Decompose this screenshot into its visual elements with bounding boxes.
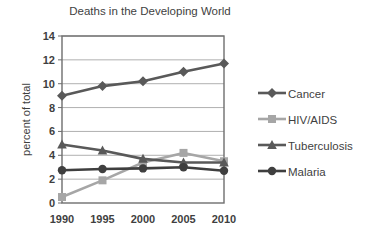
chart-legend: CancerHIV/AIDSTuberculosisMalaria — [258, 88, 353, 178]
x-axis-label-1995: 1995 — [90, 213, 114, 225]
y-axis-label-6: 6 — [49, 125, 55, 137]
y-axis-label-8: 8 — [49, 102, 55, 114]
x-axis-label-2010: 2010 — [212, 213, 236, 225]
legend-item-malaria[interactable]: Malaria — [258, 166, 326, 178]
data-point-cancer-2005 — [179, 67, 189, 77]
x-axis-label-2005: 2005 — [171, 213, 195, 225]
legend-label-malaria: Malaria — [288, 166, 326, 178]
legend-item-tuberculosis[interactable]: Tuberculosis — [258, 140, 353, 152]
plot-area-border — [62, 36, 224, 203]
data-point-hiv-aids-1990 — [58, 193, 66, 201]
series-tuberculosis — [57, 140, 229, 167]
legend-item-hiv-aids[interactable]: HIV/AIDS — [258, 114, 338, 126]
data-point-malaria-2005 — [179, 163, 187, 171]
data-point-cancer-2000 — [138, 76, 148, 86]
legend-marker-malaria — [268, 167, 276, 175]
legend-marker-cancer — [267, 88, 277, 98]
data-point-cancer-1995 — [98, 81, 108, 91]
legend-label-hiv-aids: HIV/AIDS — [288, 114, 338, 126]
data-point-hiv-aids-2005 — [180, 149, 188, 157]
data-point-malaria-1995 — [98, 165, 106, 173]
line-chart-canvas: 0246810121419901995200020052010percent o… — [0, 0, 384, 233]
y-axis-label-12: 12 — [43, 54, 55, 66]
y-axis-label-4: 4 — [49, 149, 56, 161]
data-point-malaria-1990 — [58, 166, 66, 174]
data-point-malaria-2010 — [220, 167, 228, 175]
legend-item-cancer[interactable]: Cancer — [258, 88, 325, 100]
y-axis-label-14: 14 — [43, 30, 56, 42]
x-axis-label-2000: 2000 — [131, 213, 155, 225]
chart-title: Deaths in the Developing World — [0, 5, 300, 17]
x-axis-label-1990: 1990 — [50, 213, 74, 225]
data-point-hiv-aids-1995 — [99, 176, 107, 184]
series-malaria — [58, 163, 228, 175]
y-axis-label-2: 2 — [49, 173, 55, 185]
legend-label-tuberculosis: Tuberculosis — [288, 140, 353, 152]
chart-container: Deaths in the Developing World 024681012… — [0, 0, 384, 233]
legend-marker-hiv-aids — [268, 115, 276, 123]
y-axis-label-0: 0 — [49, 197, 55, 209]
data-point-cancer-1990 — [57, 91, 67, 101]
y-axis-title: percent of total — [20, 83, 32, 156]
data-point-malaria-2000 — [139, 164, 147, 172]
y-axis-label-10: 10 — [43, 78, 55, 90]
legend-label-cancer: Cancer — [288, 88, 325, 100]
series-cancer — [57, 58, 229, 100]
